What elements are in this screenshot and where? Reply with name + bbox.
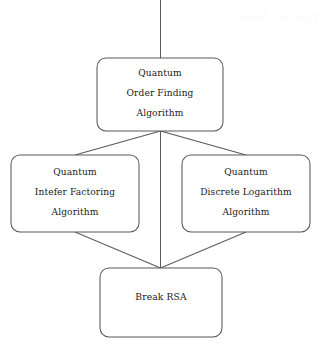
node-order-finding-line-1: Quantum: [138, 68, 182, 78]
edge-order-finding-to-integer-factoring: [75, 131, 161, 155]
quantum-algorithm-flowchart: Quantum Order Finding Algorithm Quantum …: [0, 0, 318, 348]
node-discrete-logarithm-line-2: Discrete Logarithm: [200, 187, 292, 197]
node-order-finding[interactable]: Quantum Order Finding Algorithm: [97, 58, 223, 131]
edge-order-finding-to-discrete-logarithm: [161, 131, 247, 155]
node-integer-factoring-line-3: Algorithm: [50, 207, 98, 217]
node-order-finding-line-3: Algorithm: [135, 108, 183, 118]
node-discrete-logarithm[interactable]: Quantum Discrete Logarithm Algorithm: [182, 155, 310, 232]
edge-integer-factoring-to-break-rsa: [75, 232, 161, 268]
edge-discrete-logarithm-to-break-rsa: [161, 232, 247, 268]
node-break-rsa[interactable]: Break RSA: [100, 268, 222, 337]
node-order-finding-line-2: Order Finding: [126, 88, 193, 98]
node-integer-factoring[interactable]: Quantum Intefer Factoring Algorithm: [11, 155, 139, 232]
node-break-rsa-label: Break RSA: [135, 291, 187, 302]
diagram-canvas: Quantum Order Finding Algorithm Quantum …: [0, 0, 318, 348]
node-integer-factoring-line-2: Intefer Factoring: [35, 187, 116, 197]
node-discrete-logarithm-line-1: Quantum: [224, 167, 268, 177]
node-integer-factoring-line-1: Quantum: [53, 167, 97, 177]
node-discrete-logarithm-line-3: Algorithm: [221, 207, 269, 217]
node-break-rsa-box: [100, 268, 222, 337]
